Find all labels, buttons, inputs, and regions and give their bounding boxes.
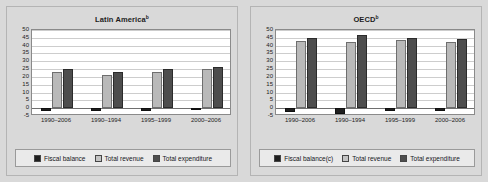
x-axis-category-label: 2000–2006 (181, 117, 231, 123)
legend-item[interactable]: Total expenditure (400, 155, 460, 162)
x-axis-category-label: 2000–2006 (425, 117, 475, 123)
chart-title-latin-america: Latin Americab (7, 15, 237, 24)
y-axis-tick-label: 0 (26, 104, 29, 110)
y-axis-tick-label: 45 (266, 34, 273, 40)
bar-expend (163, 69, 174, 108)
x-axis-category-label: 1990–1994 (81, 117, 131, 123)
legend-swatch-icon (95, 155, 102, 162)
legend-label: Fiscal balance (44, 155, 86, 162)
legend-label: Total revenue (105, 155, 144, 162)
legend-label: Total expenditure (163, 155, 213, 162)
chart-panel-latin-america: Latin Americab 50454035302520151050-5 19… (0, 0, 244, 182)
bar-revenue (52, 72, 63, 108)
y-axis-tick-label: 50 (22, 26, 29, 32)
legend-swatch-icon (274, 155, 281, 162)
bar-revenue (396, 40, 407, 108)
bar-balance (285, 108, 296, 112)
y-axis-tick-label: 15 (266, 81, 273, 87)
legend-label: Total expenditure (410, 155, 460, 162)
legend-item[interactable]: Fiscal balance(c) (274, 155, 333, 162)
x-axis-category-labels: 1990–20061990–19941995–19992000–2006 (31, 117, 231, 127)
bar-revenue (102, 75, 113, 108)
y-axis-tick-label: 0 (270, 104, 273, 110)
bar-expend (307, 38, 318, 108)
bar-balance (141, 108, 152, 111)
y-axis-tick-label: -5 (268, 112, 273, 118)
chart-panel-frame: Latin Americab 50454035302520151050-5 19… (6, 6, 238, 176)
bar-balance (435, 108, 446, 110)
bar-revenue (446, 42, 457, 108)
y-axis-tick-label: 25 (266, 65, 273, 71)
y-axis-tick-label: 35 (266, 49, 273, 55)
bar-expend (213, 67, 224, 108)
chart-title-footnote-marker: b (146, 14, 149, 20)
legend-swatch-icon (153, 155, 160, 162)
plot-canvas (31, 29, 231, 115)
chart-pair-figure: Latin Americab 50454035302520151050-5 19… (0, 0, 488, 182)
bar-balance (385, 108, 396, 111)
legend-item[interactable]: Total revenue (95, 155, 144, 162)
y-axis-tick-label: 30 (266, 57, 273, 63)
legend-swatch-icon (342, 155, 349, 162)
y-axis-tick-label: 5 (26, 96, 29, 102)
bar-balance (191, 108, 202, 110)
bar-expend (457, 39, 468, 108)
y-axis-tick-label: 10 (266, 89, 273, 95)
chart-title-text: Latin America (95, 15, 146, 24)
y-axis-tick-label: 20 (22, 73, 29, 79)
chart-legend: Fiscal balance(c)Total revenueTotal expe… (259, 149, 475, 167)
legend-item[interactable]: Fiscal balance (34, 155, 86, 162)
plot-canvas (275, 29, 475, 115)
bar-series-group (32, 30, 230, 114)
x-axis-category-label: 1990–2006 (275, 117, 325, 123)
plot-area-wrapper: 50454035302520151050-5 1990–20061990–199… (259, 29, 475, 127)
y-axis-tick-label: 15 (22, 81, 29, 87)
x-axis-category-label: 1990–1994 (325, 117, 375, 123)
y-axis-tick-label: 25 (22, 65, 29, 71)
legend-item[interactable]: Total expenditure (153, 155, 213, 162)
y-axis-ticks: 50454035302520151050-5 (259, 29, 274, 115)
chart-title-text: OECD (353, 15, 375, 24)
plot-area-wrapper: 50454035302520151050-5 1990–20061990–199… (15, 29, 231, 127)
bar-revenue (346, 42, 357, 108)
chart-legend: Fiscal balanceTotal revenueTotal expendi… (15, 149, 231, 167)
bar-balance (41, 108, 52, 110)
legend-swatch-icon (400, 155, 407, 162)
bar-balance (91, 108, 102, 111)
y-axis-tick-label: 30 (22, 57, 29, 63)
x-axis-category-label: 1995–1999 (131, 117, 181, 123)
x-axis-category-label: 1990–2006 (31, 117, 81, 123)
bar-revenue (296, 41, 307, 108)
chart-title-footnote-marker: b (375, 14, 378, 20)
bar-series-group (276, 30, 474, 114)
legend-label: Total revenue (352, 155, 391, 162)
bar-expend (407, 38, 418, 109)
y-axis-tick-label: 5 (270, 96, 273, 102)
y-axis-tick-label: -5 (24, 112, 29, 118)
bar-balance (335, 108, 346, 114)
y-axis-tick-label: 20 (266, 73, 273, 79)
bar-expend (113, 72, 124, 108)
chart-title-oecd: OECDb (251, 15, 481, 24)
y-axis-tick-label: 40 (22, 42, 29, 48)
y-axis-tick-label: 35 (22, 49, 29, 55)
y-axis-ticks: 50454035302520151050-5 (15, 29, 30, 115)
y-axis-tick-label: 45 (22, 34, 29, 40)
y-axis-tick-label: 50 (266, 26, 273, 32)
y-axis-tick-label: 40 (266, 42, 273, 48)
y-axis-tick-label: 10 (22, 89, 29, 95)
legend-item[interactable]: Total revenue (342, 155, 391, 162)
bar-expend (63, 69, 74, 108)
legend-swatch-icon (34, 155, 41, 162)
bar-revenue (202, 69, 213, 108)
bar-expend (357, 35, 368, 108)
legend-label: Fiscal balance(c) (284, 155, 333, 162)
x-axis-category-label: 1995–1999 (375, 117, 425, 123)
bar-revenue (152, 72, 163, 108)
x-axis-category-labels: 1990–20061990–19941995–19992000–2006 (275, 117, 475, 127)
chart-panel-oecd: OECDb 50454035302520151050-5 1990–200619… (244, 0, 488, 182)
chart-panel-frame: OECDb 50454035302520151050-5 1990–200619… (250, 6, 482, 176)
